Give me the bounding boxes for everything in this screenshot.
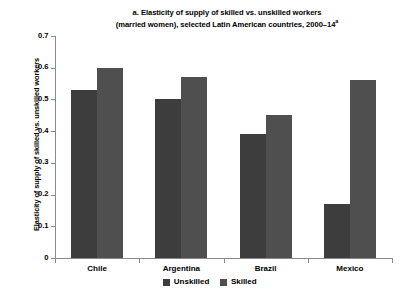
chart-title: a. Elasticity of supply of skilled vs. u… [62,7,392,30]
y-axis-tick-label: 0.5 [38,94,49,103]
bar-skilled-mexico [350,80,376,258]
y-axis-tick-label: 0 [44,253,48,262]
bar-skilled-chile [97,68,123,258]
y-axis-tick-label: 0.7 [38,31,49,40]
bar-skilled-brazil [266,115,292,258]
chart-figure: a. Elasticity of supply of skilled vs. u… [0,0,420,297]
bar-group [240,36,292,258]
y-axis-tick-label: 0.2 [38,189,49,198]
chart-title-line-1: a. Elasticity of supply of skilled vs. u… [62,7,392,19]
y-axis-tick-label: 0.1 [38,221,49,230]
x-axis-tick [392,258,393,263]
y-axis-tick: 0.4 [51,131,55,132]
y-axis-tick: 0.2 [51,195,55,196]
y-axis-tick-label: 0.3 [38,157,49,166]
x-axis-tick [308,258,309,263]
chart-legend: UnskilledSkilled [0,278,420,286]
y-axis-line [55,36,56,258]
x-axis-tick [139,258,140,263]
x-axis-tick [224,258,225,263]
legend-label-unskilled: Unskilled [174,278,210,286]
legend-swatch-skilled [220,279,227,286]
chart-title-line-2: (married women), selected Latin American… [62,19,392,31]
bar-group [324,36,376,258]
legend-swatch-unskilled [163,279,170,286]
bar-unskilled-brazil [240,134,266,258]
y-axis-tick: 0.5 [51,99,55,100]
bar-group [71,36,123,258]
x-axis-tick [55,258,56,263]
y-axis-tick: 0.7 [51,36,55,37]
bar-skilled-argentina [181,77,207,258]
plot-area: 00.10.20.30.40.50.60.7ChileArgentinaBraz… [55,36,392,258]
chart-title-footnote-marker: a [335,18,338,24]
chart-title-line-2-text: (married women), selected Latin American… [116,20,336,29]
x-axis-label-mexico: Mexico [290,264,410,273]
y-axis-tick: 0.3 [51,163,55,164]
y-axis-tick-label: 0.6 [38,62,49,71]
legend-item-unskilled: Unskilled [163,278,209,286]
bar-unskilled-mexico [324,204,350,258]
bar-unskilled-chile [71,90,97,258]
y-axis-tick-label: 0.4 [38,126,49,135]
legend-item-skilled: Skilled [220,278,256,286]
bar-group [155,36,207,258]
y-axis-tick: 0.6 [51,68,55,69]
legend-label-skilled: Skilled [231,278,257,286]
y-axis-tick: 0.1 [51,226,55,227]
bar-unskilled-argentina [155,99,181,258]
